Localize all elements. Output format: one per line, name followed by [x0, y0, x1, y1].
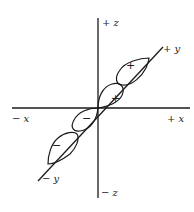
y-axis: [38, 47, 163, 181]
label-z-negative: − z: [101, 187, 119, 198]
sign-inner-negative: −: [82, 112, 91, 125]
sign-inner-positive: +: [111, 92, 120, 105]
label-z-positive: + z: [102, 17, 120, 28]
sign-outer-positive: +: [126, 59, 135, 72]
label-x-positive: + x: [167, 113, 185, 124]
orbital-diagram: + + − − + z − z − x + x + y − y: [0, 0, 194, 212]
label-x-negative: − x: [12, 113, 30, 124]
sign-outer-negative: −: [52, 139, 61, 152]
label-y-positive: + y: [163, 43, 181, 54]
label-y-negative: − y: [42, 173, 60, 184]
